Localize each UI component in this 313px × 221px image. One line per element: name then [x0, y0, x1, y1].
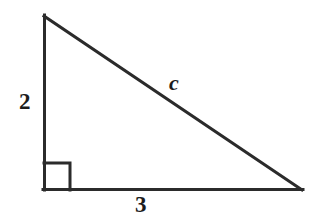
right-triangle-figure: 2 3 c	[0, 0, 313, 221]
hypotenuse-label: c	[169, 72, 179, 94]
vertical-leg-label: 2	[19, 90, 31, 113]
hypotenuse-line	[44, 16, 302, 190]
right-angle-marker-icon	[44, 163, 70, 190]
horizontal-leg-label: 3	[135, 193, 147, 216]
triangle-drawing	[0, 0, 313, 221]
